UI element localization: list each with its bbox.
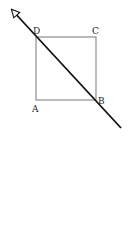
- vertex-label-a: A: [31, 104, 39, 114]
- vertex-label-b: B: [98, 96, 105, 106]
- line-through-d-and-b: [12, 10, 121, 128]
- vertex-label-d: D: [33, 26, 40, 36]
- vertex-label-c: C: [92, 26, 99, 36]
- diagram-canvas: D C A B: [0, 0, 129, 234]
